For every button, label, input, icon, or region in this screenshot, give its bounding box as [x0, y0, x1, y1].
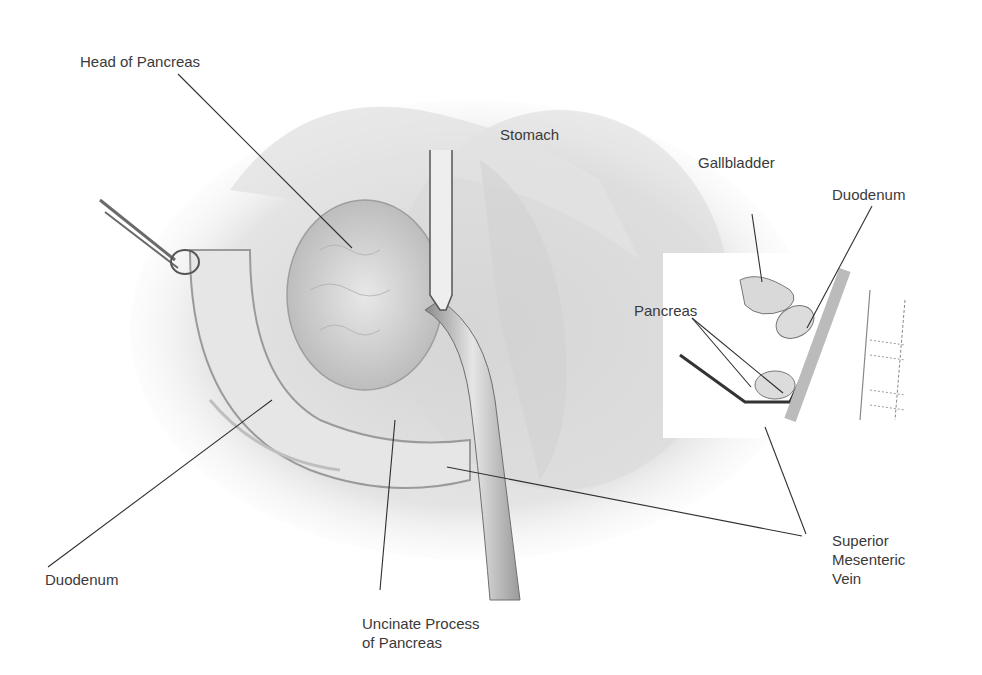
label-pancreas-inset: Pancreas	[634, 301, 697, 320]
label-duodenum-main: Duodenum	[45, 570, 118, 589]
label-superior-mesenteric-vein: Superior Mesenteric Vein	[832, 531, 905, 588]
inset-diagram	[663, 253, 923, 438]
label-smv-line2: Mesenteric	[832, 550, 905, 569]
label-uncinate-process: Uncinate Process of Pancreas	[362, 614, 480, 652]
label-duodenum-inset: Duodenum	[832, 185, 905, 204]
pancreas-head-illustration	[287, 200, 443, 390]
label-stomach: Stomach	[500, 125, 559, 144]
label-gallbladder: Gallbladder	[698, 153, 775, 172]
label-smv-line3: Vein	[832, 569, 905, 588]
label-uncinate-line1: Uncinate Process	[362, 614, 480, 633]
label-smv-line1: Superior	[832, 531, 905, 550]
label-uncinate-line2: of Pancreas	[362, 633, 480, 652]
label-head-of-pancreas: Head of Pancreas	[80, 52, 200, 71]
probe-illustration	[430, 150, 452, 310]
